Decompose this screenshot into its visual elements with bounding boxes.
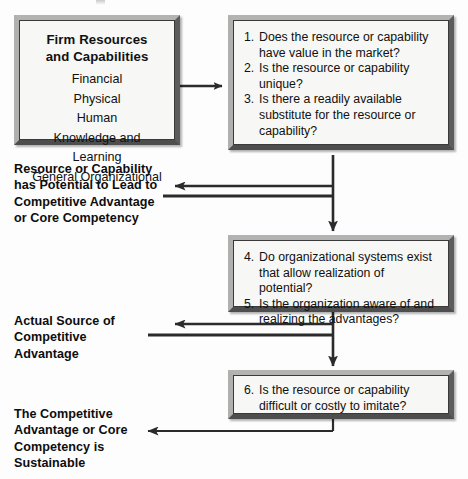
question-item: 5. Is the organization aware of and real…: [244, 297, 438, 328]
outcome-sustainable: The Competitive Advantage or Core Compet…: [14, 406, 144, 472]
outcome-actual-source: Actual Source of Competitive Advantage: [14, 313, 150, 362]
question-list-3: 6. Is the resource or capability difficu…: [244, 383, 438, 414]
question-box-2-inner: 4. Do organizational systems exist that …: [233, 240, 449, 307]
question-number: 1.: [244, 30, 254, 46]
question-box-3-inner: 6. Is the resource or capability difficu…: [233, 375, 449, 414]
question-number: 3.: [244, 92, 254, 108]
question-box-1: 1. Does the resource or capability have …: [228, 15, 454, 150]
question-number: 2.: [244, 61, 254, 77]
question-text: Do organizational systems exist that all…: [259, 250, 432, 295]
outcome-potential: Resource or Capability has Potential to …: [14, 161, 166, 227]
question-text: Is the resource or capability difficult …: [259, 383, 409, 413]
question-text: Is the organization aware of and realizi…: [259, 297, 434, 327]
question-text: Is there a readily available substitute …: [259, 92, 416, 137]
question-text: Does the resource or capability have val…: [259, 30, 429, 60]
question-list-2: 4. Do organizational systems exist that …: [244, 250, 438, 328]
firm-resources-heading-line1: Firm Resources: [28, 31, 166, 48]
resource-item: Human: [28, 109, 166, 129]
question-box-2: 4. Do organizational systems exist that …: [228, 235, 454, 312]
question-item: 4. Do organizational systems exist that …: [244, 250, 438, 297]
question-item: 3. Is there a readily available substitu…: [244, 92, 438, 139]
firm-resources-box: Firm Resources and Capabilities Financia…: [14, 15, 180, 145]
question-item: 1. Does the resource or capability have …: [244, 30, 438, 61]
firm-resources-box-inner: Firm Resources and Capabilities Financia…: [19, 20, 175, 140]
diagram-canvas: Firm Resources and Capabilities Financia…: [0, 0, 468, 479]
resource-item: Physical: [28, 90, 166, 110]
question-box-1-inner: 1. Does the resource or capability have …: [233, 20, 449, 145]
question-text: Is the resource or capability unique?: [259, 61, 409, 91]
firm-resources-heading-line2: and Capabilities: [28, 48, 166, 65]
question-list-1: 1. Does the resource or capability have …: [244, 30, 438, 139]
question-item: 2. Is the resource or capability unique?: [244, 61, 438, 92]
firm-resources-heading: Firm Resources and Capabilities: [28, 31, 166, 65]
question-number: 4.: [244, 250, 254, 266]
resource-item: Financial: [28, 70, 166, 90]
question-box-3: 6. Is the resource or capability difficu…: [228, 370, 454, 419]
question-item: 6. Is the resource or capability difficu…: [244, 383, 438, 414]
question-number: 6.: [244, 383, 254, 399]
page-top-artifact: [96, 0, 105, 5]
question-number: 5.: [244, 297, 254, 313]
